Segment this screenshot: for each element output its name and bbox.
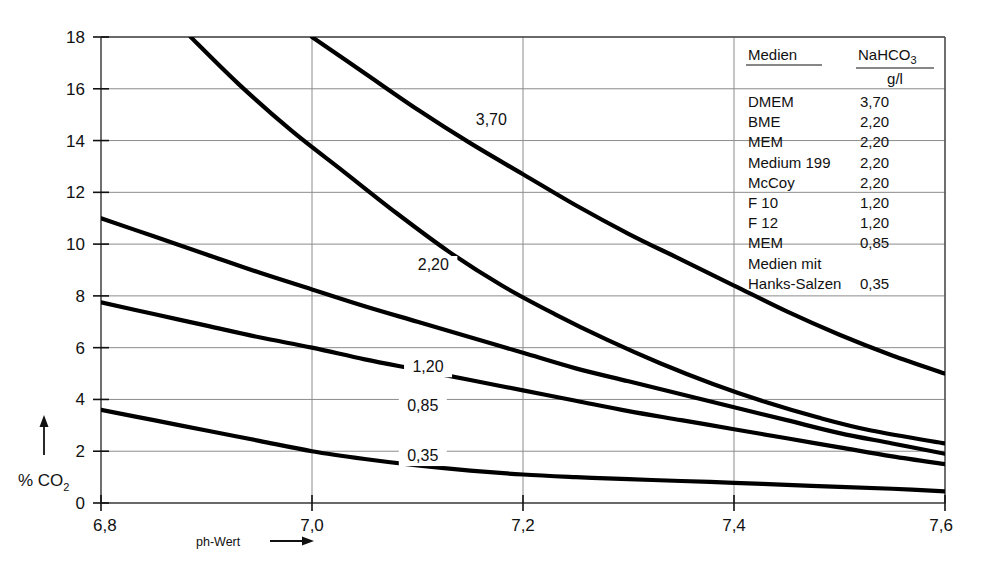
legend-header-media: Medien — [748, 46, 797, 63]
legend-row-value: 2,20 — [860, 113, 889, 130]
y-tick-label: 2 — [76, 442, 85, 461]
legend-row-value: 2,20 — [860, 154, 889, 171]
y-tick-label: 4 — [76, 390, 85, 409]
co2-ph-chart: 024681012141618 6,87,07,27,47,6 3,702,20… — [0, 0, 982, 568]
y-tick-label: 18 — [66, 28, 85, 47]
y-tick-label: 16 — [66, 80, 85, 99]
legend-row-medium: DMEM — [748, 93, 794, 110]
x-axis-title: ph-Wert — [196, 535, 241, 549]
legend-row-medium: Hanks-Salzen — [748, 275, 841, 292]
legend-row-value: 3,70 — [860, 93, 889, 110]
y-axis-title: % CO2 — [18, 471, 69, 493]
legend-row-medium: Medien mit — [748, 255, 822, 272]
y-tick-label: 8 — [76, 287, 85, 306]
x-tick-label: 7,2 — [511, 516, 535, 535]
legend-row-medium: McCoy — [748, 174, 795, 191]
legend-header-unit: g/l — [887, 70, 903, 87]
legend-row-value: 2,20 — [860, 174, 889, 191]
x-tick-label: 7,6 — [929, 516, 953, 535]
curve-label-0-35: 0,35 — [407, 447, 438, 464]
legend-row-value: 1,20 — [860, 214, 889, 231]
legend-row-medium: MEM — [748, 133, 783, 150]
x-tick-label: 7,0 — [300, 516, 324, 535]
legend-row-medium: BME — [748, 113, 781, 130]
legend-row-medium: F 12 — [748, 214, 778, 231]
legend-row-value: 1,20 — [860, 194, 889, 211]
x-tick-label: 6,8 — [93, 516, 117, 535]
y-tick-label: 6 — [76, 339, 85, 358]
y-tick-label: 12 — [66, 183, 85, 202]
legend-row-value: 0,85 — [860, 234, 889, 251]
curve-label-3-70: 3,70 — [476, 111, 507, 128]
curve-label-1-20: 1,20 — [412, 358, 443, 375]
legend-row-medium: Medium 199 — [748, 154, 831, 171]
legend-row-value: 2,20 — [860, 133, 889, 150]
chart-canvas: 024681012141618 6,87,07,27,47,6 3,702,20… — [0, 0, 982, 568]
legend-row-medium: F 10 — [748, 194, 778, 211]
curve-label-2-20: 2,20 — [418, 256, 449, 273]
curve-label-0-85: 0,85 — [407, 397, 438, 414]
legend-row-value: 0,35 — [860, 275, 889, 292]
legend-row-medium: MEM — [748, 234, 783, 251]
y-tick-label: 10 — [66, 235, 85, 254]
y-tick-label: 0 — [76, 494, 85, 513]
x-tick-label: 7,4 — [722, 516, 746, 535]
y-tick-label: 14 — [66, 132, 85, 151]
